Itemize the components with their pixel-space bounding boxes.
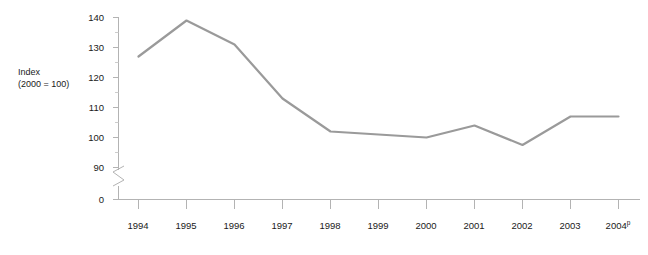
axis-break-icon: [113, 166, 124, 186]
data-series-line: [139, 21, 619, 146]
line-chart-figure: Index (2000 = 100) 140 130 120 110 100 9…: [0, 0, 648, 255]
plot-area: [0, 0, 648, 255]
